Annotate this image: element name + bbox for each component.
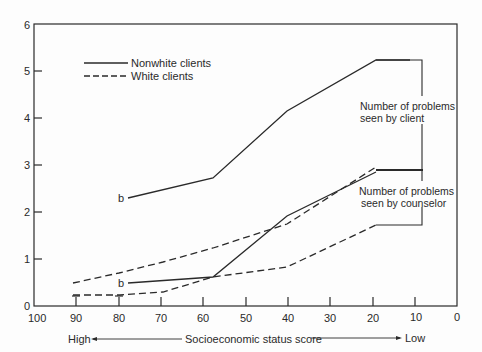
legend: Nonwhite clients White clients xyxy=(84,57,212,82)
svg-text:20: 20 xyxy=(367,312,379,324)
note-b-upper: b xyxy=(118,192,124,204)
note-b-lower: b xyxy=(118,277,124,289)
svg-text:Nonwhite clients: Nonwhite clients xyxy=(131,57,212,69)
plot-frame xyxy=(34,24,457,306)
bracket-client-label-2: seen by client xyxy=(360,112,424,124)
line-chart: 6 5 4 3 2 1 0 100 90 80 70 60 50 40 30 2… xyxy=(0,0,482,352)
svg-text:6: 6 xyxy=(24,19,30,31)
svg-text:90: 90 xyxy=(70,312,82,324)
svg-text:30: 30 xyxy=(324,312,336,324)
y-tick-labels: 6 5 4 3 2 1 0 xyxy=(24,19,30,312)
svg-text:50: 50 xyxy=(240,312,252,324)
svg-text:1: 1 xyxy=(24,253,30,265)
svg-text:High: High xyxy=(68,333,91,345)
svg-text:80: 80 xyxy=(113,312,125,324)
svg-text:10: 10 xyxy=(410,311,422,323)
svg-text:70: 70 xyxy=(155,312,167,324)
bracket-counselor-label-1: Number of problems xyxy=(359,185,454,197)
svg-text:White clients: White clients xyxy=(131,70,194,82)
svg-text:0: 0 xyxy=(454,311,460,323)
svg-text:0: 0 xyxy=(24,300,30,312)
svg-text:60: 60 xyxy=(197,312,209,324)
x-axis-title: High Socioeconomic status score Low xyxy=(68,332,425,345)
svg-text:4: 4 xyxy=(24,112,30,124)
svg-text:100: 100 xyxy=(28,312,46,324)
bracket-counselor-label-2: seen by counselor xyxy=(361,197,447,209)
bracket-client-label-1: Number of problems xyxy=(360,100,455,112)
svg-text:3: 3 xyxy=(24,159,30,171)
svg-text:2: 2 xyxy=(24,206,30,218)
y-axis xyxy=(34,71,42,259)
svg-text:Low: Low xyxy=(405,332,425,344)
svg-text:40: 40 xyxy=(282,312,294,324)
series-white-client xyxy=(73,167,376,283)
x-tick-labels: 100 90 80 70 60 50 40 30 20 10 0 xyxy=(28,311,460,324)
svg-text:5: 5 xyxy=(24,65,30,77)
svg-text:Socioeconomic status score: Socioeconomic status score xyxy=(185,333,322,345)
x-axis xyxy=(72,296,415,306)
